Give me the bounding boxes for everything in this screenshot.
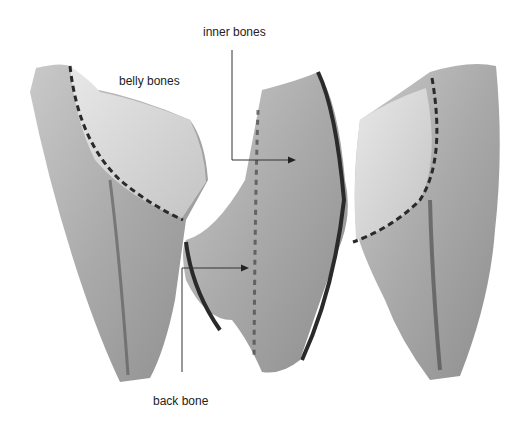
middle-fillet <box>183 72 348 373</box>
left-fillet <box>30 64 208 382</box>
fillet-illustration <box>0 0 528 428</box>
fillet-diagram: inner bones belly bones back bone <box>0 0 528 428</box>
right-fillet <box>353 64 500 380</box>
label-back-bone: back bone <box>153 394 208 408</box>
label-belly-bones: belly bones <box>119 74 180 88</box>
label-inner-bones: inner bones <box>203 25 266 39</box>
